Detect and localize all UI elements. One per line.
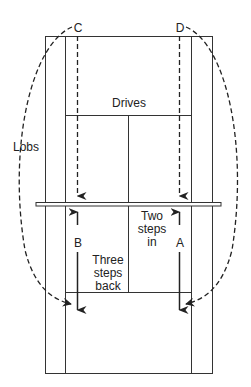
label-a: A bbox=[173, 237, 187, 250]
court-diagram bbox=[0, 0, 251, 387]
label-three-steps-back: Three steps back bbox=[88, 254, 128, 293]
label-d: D bbox=[173, 22, 187, 35]
label-b: B bbox=[71, 237, 85, 250]
label-drives: Drives bbox=[106, 97, 152, 110]
label-lobs: Lobs bbox=[11, 141, 41, 154]
label-c: C bbox=[71, 22, 85, 35]
label-two-steps-in: Two steps in bbox=[134, 210, 170, 249]
net bbox=[36, 203, 221, 207]
lob-arc-right bbox=[186, 27, 237, 304]
